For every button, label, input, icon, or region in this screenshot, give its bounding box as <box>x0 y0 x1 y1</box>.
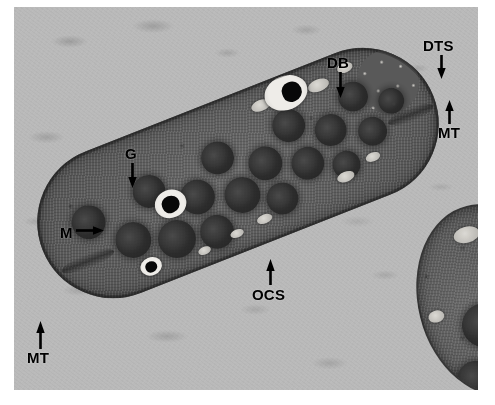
arrow-g <box>128 163 137 188</box>
micrograph-figure: DB DTS MT G <box>0 0 495 405</box>
label-m: M <box>60 225 73 240</box>
arrow-mt-top <box>445 100 454 124</box>
label-ocs: OCS <box>252 287 285 302</box>
label-dts: DTS <box>423 38 454 53</box>
label-g: G <box>125 146 137 161</box>
arrow-dts <box>437 55 446 79</box>
micrograph-plate: DB DTS MT G <box>14 7 478 390</box>
arrow-mt-bottom <box>36 321 45 349</box>
arrow-ocs <box>266 259 275 285</box>
arrow-m <box>76 226 104 235</box>
label-mt-bottom: MT <box>27 350 49 365</box>
label-mt-top: MT <box>438 125 460 140</box>
label-db: DB <box>327 55 349 70</box>
arrow-db <box>336 72 345 98</box>
